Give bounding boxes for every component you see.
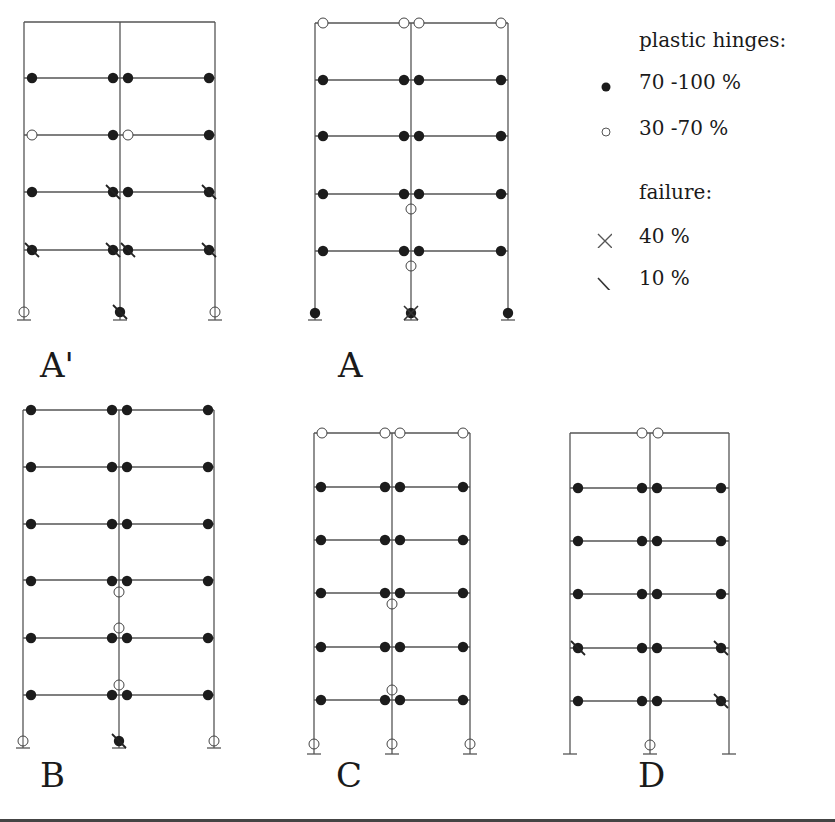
filled-hinge-icon xyxy=(122,633,132,643)
filled-hinge-icon xyxy=(399,246,409,256)
filled-hinge-icon xyxy=(203,690,213,700)
filled-hinge-icon xyxy=(395,642,405,652)
open-hinge-icon xyxy=(414,18,424,28)
filled-hinge-icon xyxy=(122,462,132,472)
filled-hinge-icon xyxy=(123,187,133,197)
filled-hinge-icon xyxy=(203,576,213,586)
filled-hinge-icon xyxy=(414,131,424,141)
open-hinge-icon xyxy=(317,428,327,438)
filled-hinge-icon xyxy=(27,73,37,83)
filled-hinge-icon xyxy=(316,588,326,598)
filled-hinge-icon xyxy=(316,695,326,705)
filled-hinge-icon xyxy=(458,535,468,545)
filled-hinge-icon xyxy=(652,696,662,706)
legend-hinges-title: plastic hinges: xyxy=(639,28,786,52)
filled-hinge-icon xyxy=(458,588,468,598)
filled-hinge-icon xyxy=(318,246,328,256)
legend-row-failure-slash: 10 % xyxy=(580,266,830,294)
filled-hinge-icon xyxy=(503,308,513,318)
slash-icon xyxy=(592,270,612,290)
filled-hinge-icon xyxy=(637,589,647,599)
legend-label-failure-x: 40 % xyxy=(639,224,690,248)
filled-hinge-icon xyxy=(395,535,405,545)
legend-failure-title: failure: xyxy=(639,180,712,204)
filled-hinge-icon xyxy=(107,576,117,586)
filled-hinge-icon xyxy=(318,75,328,85)
filled-hinge-icon xyxy=(496,131,506,141)
filled-hinge-icon xyxy=(26,690,36,700)
filled-hinge-icon xyxy=(458,695,468,705)
filled-hinge-icon xyxy=(204,73,214,83)
legend-label-failure-slash: 10 % xyxy=(639,266,690,290)
filled-hinge-icon xyxy=(107,633,117,643)
filled-hinge-icon xyxy=(203,519,213,529)
frame-d xyxy=(563,428,736,754)
open-hinge-icon xyxy=(653,428,663,438)
filled-hinge-icon xyxy=(107,405,117,415)
filled-hinge-icon xyxy=(395,482,405,492)
filled-hinge-icon xyxy=(122,576,132,586)
filled-hinge-icon xyxy=(573,696,583,706)
filled-hinge-icon xyxy=(573,483,583,493)
filled-hinge-icon xyxy=(399,75,409,85)
open-circle-icon xyxy=(592,120,612,140)
frame-label-d: D xyxy=(638,755,665,795)
filled-hinge-icon xyxy=(496,189,506,199)
open-hinge-icon xyxy=(27,130,37,140)
filled-hinge-icon xyxy=(414,75,424,85)
open-hinge-icon xyxy=(123,130,133,140)
filled-hinge-icon xyxy=(652,589,662,599)
filled-hinge-icon xyxy=(414,246,424,256)
filled-hinge-icon xyxy=(107,519,117,529)
filled-hinge-icon xyxy=(380,482,390,492)
open-hinge-icon xyxy=(380,428,390,438)
filled-hinge-icon xyxy=(122,690,132,700)
filled-hinge-icon xyxy=(26,519,36,529)
filled-hinge-icon xyxy=(310,308,320,318)
cross-icon xyxy=(592,228,612,248)
filled-hinge-icon xyxy=(107,690,117,700)
filled-hinge-icon xyxy=(380,535,390,545)
filled-hinge-icon xyxy=(652,483,662,493)
filled-hinge-icon xyxy=(316,642,326,652)
filled-hinge-icon xyxy=(316,482,326,492)
legend-row-partial-hinge: 30 -70 % xyxy=(580,116,830,144)
open-hinge-icon xyxy=(496,18,506,28)
filled-hinge-icon xyxy=(399,131,409,141)
filled-hinge-icon xyxy=(380,695,390,705)
filled-hinge-icon xyxy=(637,536,647,546)
filled-hinge-icon xyxy=(716,589,726,599)
open-hinge-icon xyxy=(395,428,405,438)
filled-hinge-icon xyxy=(414,189,424,199)
filled-hinge-icon xyxy=(380,588,390,598)
filled-hinge-icon xyxy=(203,462,213,472)
frame-label-a: A xyxy=(338,345,363,385)
open-hinge-icon xyxy=(637,428,647,438)
filled-hinge-icon xyxy=(203,405,213,415)
filled-hinge-icon xyxy=(652,536,662,546)
filled-hinge-icon xyxy=(122,519,132,529)
legend-label-full: 70 -100 % xyxy=(639,70,741,94)
filled-hinge-icon xyxy=(26,576,36,586)
filled-hinge-icon xyxy=(27,187,37,197)
frame-c xyxy=(307,428,477,754)
filled-hinge-icon xyxy=(496,246,506,256)
filled-hinge-icon xyxy=(399,189,409,199)
filled-hinge-icon xyxy=(637,643,647,653)
filled-hinge-icon xyxy=(318,131,328,141)
filled-hinge-icon xyxy=(573,589,583,599)
frame-b xyxy=(16,405,221,748)
filled-hinge-icon xyxy=(26,633,36,643)
filled-hinge-icon xyxy=(716,536,726,546)
filled-hinge-icon xyxy=(26,405,36,415)
filled-hinge-icon xyxy=(716,483,726,493)
legend-row-failure-x: 40 % xyxy=(580,224,830,252)
open-hinge-icon xyxy=(318,18,328,28)
filled-hinge-icon xyxy=(637,696,647,706)
legend-row-full-hinge: 70 -100 % xyxy=(580,70,830,98)
filled-hinge-icon xyxy=(108,73,118,83)
frame-label-c: C xyxy=(336,755,362,795)
filled-hinge-icon xyxy=(458,482,468,492)
filled-hinge-icon xyxy=(395,588,405,598)
frame-a-prime xyxy=(17,22,222,320)
